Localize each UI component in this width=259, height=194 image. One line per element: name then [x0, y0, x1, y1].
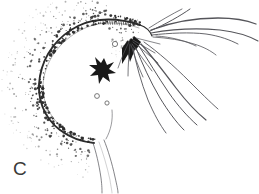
stipple-dot — [85, 151, 86, 152]
stipple-dot — [62, 135, 65, 138]
stipple-dot — [7, 87, 8, 88]
stipple-dot — [125, 28, 127, 30]
stipple-dot — [76, 136, 77, 137]
stipple-dot — [12, 123, 13, 124]
stipple-dot — [35, 9, 37, 11]
stipple-dot — [34, 84, 35, 85]
stipple-dot — [67, 133, 68, 134]
stipple-dot — [118, 16, 120, 18]
stipple-dot — [38, 139, 40, 141]
appendage-strand-1 — [151, 18, 256, 30]
stipple-dot — [76, 151, 77, 152]
stipple-dot — [50, 4, 51, 5]
stipple-dot — [40, 23, 41, 24]
stipple-dot — [15, 58, 16, 60]
stipple-dot — [81, 154, 82, 155]
stipple-dot — [22, 78, 24, 80]
stipple-dot — [67, 24, 68, 25]
stipple-dot — [37, 42, 39, 44]
stipple-dot — [53, 16, 54, 17]
stipple-dot — [11, 120, 13, 122]
stipple-dot — [75, 142, 76, 143]
stipple-dot — [116, 29, 118, 31]
stipple-dot — [31, 138, 32, 139]
stipple-dot — [14, 107, 16, 109]
stipple-dot — [24, 47, 25, 48]
stipple-dot — [70, 17, 71, 18]
stipple-dot — [45, 129, 46, 130]
lower-appendage-group — [133, 42, 218, 133]
stipple-dot — [40, 85, 42, 87]
stipple-dot — [29, 137, 30, 138]
stipple-dot — [43, 56, 45, 58]
stipple-dot — [13, 40, 15, 42]
stipple-dot — [101, 12, 102, 13]
stipple-dot — [29, 49, 30, 50]
stipple-dot — [20, 132, 21, 133]
stipple-dot — [40, 52, 41, 53]
stipple-dot — [34, 126, 35, 127]
stipple-dot — [58, 165, 59, 166]
stipple-dot — [25, 109, 27, 111]
stipple-dot — [137, 20, 138, 21]
stipple-dot — [83, 8, 84, 9]
stipple-dot — [111, 41, 112, 42]
stipple-dot — [93, 13, 95, 15]
stipple-dot — [56, 132, 57, 133]
stipple-dot — [27, 66, 29, 68]
stipple-dot — [13, 116, 15, 118]
stipple-dot — [17, 51, 18, 52]
stipple-dot — [65, 10, 66, 11]
stipple-dot — [22, 32, 24, 34]
stipple-dot — [119, 51, 120, 52]
stipple-dot — [47, 6, 48, 7]
stipple-dot — [16, 129, 17, 130]
stipple-dot — [61, 141, 63, 143]
stipple-dot — [121, 25, 122, 26]
appendage-strand-7 — [153, 37, 216, 55]
figure-panel: C — [0, 0, 259, 194]
stipple-dot — [24, 57, 26, 59]
stipple-dot — [45, 24, 46, 25]
stipple-dot — [46, 27, 47, 28]
stipple-dot — [78, 22, 79, 23]
stipple-dot — [51, 32, 52, 33]
stipple-dot — [40, 159, 41, 160]
stipple-dot — [120, 28, 122, 30]
stipple-dot — [56, 35, 59, 38]
stipple-dot — [62, 14, 63, 15]
stipple-dot — [32, 54, 34, 56]
stipple-dot — [104, 13, 106, 15]
stipple-dot — [36, 135, 38, 137]
stipple-dot — [111, 53, 112, 54]
stipple-dot — [56, 9, 57, 10]
stipple-dot — [54, 166, 55, 167]
stipple-dot — [112, 27, 113, 28]
stipple-dot — [20, 74, 21, 75]
stipple-dot — [28, 81, 30, 83]
stipple-dot — [24, 79, 25, 80]
stipple-dot — [122, 37, 123, 38]
stipple-dot — [36, 104, 38, 106]
stipple-dot — [112, 47, 113, 48]
stipple-dot — [85, 10, 87, 12]
stipple-dot — [39, 70, 40, 71]
stipple-dot — [125, 31, 126, 32]
stipple-dot — [36, 101, 39, 104]
stipple-dot — [65, 38, 66, 39]
upper-appendage-group — [149, 9, 258, 55]
stipple-dot — [30, 101, 31, 102]
stipple-dot — [50, 11, 51, 12]
stipple-dot — [108, 27, 110, 29]
stipple-dot — [86, 17, 87, 18]
stipple-dot — [25, 37, 26, 38]
stipple-dot — [45, 150, 46, 151]
stipple-dot — [106, 5, 107, 6]
stipple-dot — [56, 6, 58, 8]
panel-label: C — [13, 158, 27, 180]
body-outline — [39, 20, 140, 144]
stipple-dot — [13, 133, 14, 134]
stipple-dot — [46, 112, 47, 113]
stipple-dot — [37, 43, 38, 44]
stipple-dot — [29, 15, 30, 16]
